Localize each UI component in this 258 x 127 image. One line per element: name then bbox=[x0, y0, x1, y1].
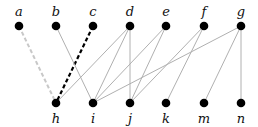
node-label-g: g bbox=[237, 4, 245, 19]
node-label-i: i bbox=[91, 111, 95, 126]
node-label-f: f bbox=[201, 4, 209, 19]
node-label-c: c bbox=[89, 4, 97, 19]
node-a bbox=[15, 22, 24, 31]
node-c bbox=[89, 22, 98, 31]
edge-d-h bbox=[56, 26, 130, 103]
node-label-e: e bbox=[162, 4, 170, 19]
node-label-k: k bbox=[162, 111, 170, 126]
node-label-a: a bbox=[15, 4, 23, 19]
node-g bbox=[237, 22, 246, 31]
edges-layer bbox=[19, 26, 241, 103]
edge-d-i bbox=[93, 26, 130, 103]
node-f bbox=[200, 22, 209, 31]
edge-a-h bbox=[19, 26, 56, 103]
node-label-h: h bbox=[52, 111, 60, 126]
bipartite-graph: abcdefghijkmn bbox=[0, 0, 258, 127]
node-b bbox=[52, 22, 61, 31]
node-m bbox=[200, 99, 209, 108]
edge-g-m bbox=[204, 26, 241, 103]
edge-g-i bbox=[93, 26, 241, 103]
node-n bbox=[237, 99, 246, 108]
node-k bbox=[162, 99, 171, 108]
node-label-m: m bbox=[198, 111, 210, 126]
node-j bbox=[126, 99, 135, 108]
node-label-b: b bbox=[52, 4, 60, 19]
node-i bbox=[89, 99, 98, 108]
node-label-j: j bbox=[125, 111, 132, 126]
edge-e-j bbox=[130, 26, 166, 103]
node-e bbox=[162, 22, 171, 31]
node-d bbox=[126, 22, 135, 31]
node-h bbox=[52, 99, 61, 108]
node-label-n: n bbox=[237, 111, 245, 126]
edge-f-k bbox=[166, 26, 204, 103]
node-label-d: d bbox=[126, 4, 134, 19]
